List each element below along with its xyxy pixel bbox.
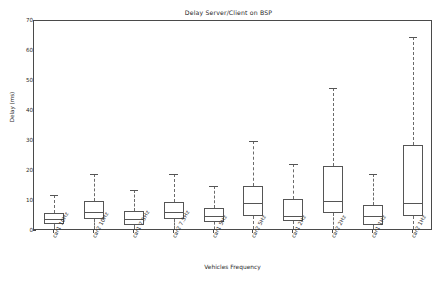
x-tick-label: car1 2Hz bbox=[290, 214, 307, 239]
x-tick-label: car2 5Hz bbox=[250, 214, 267, 239]
x-tick-label: car1 5Hz bbox=[211, 214, 228, 239]
x-tick-label: car1 10Hz bbox=[51, 211, 70, 239]
x-tick-label: car2 2Hz bbox=[330, 214, 347, 239]
x-tick-label: car2 10Hz bbox=[91, 211, 110, 239]
x-tick-label: car2 1Hz bbox=[410, 214, 427, 239]
x-tick-label: car1 7.5Hz bbox=[131, 209, 150, 238]
x-tick-label: car2 7.5Hz bbox=[171, 209, 190, 238]
boxplot-figure: Delay Server/Client on BSP Delay (ms) 01… bbox=[0, 0, 440, 281]
x-axis: car1 10Hzcar2 10Hzcar1 7.5Hzcar2 7.5Hzca… bbox=[0, 0, 440, 281]
x-axis-label: Vehicles Frequency bbox=[33, 264, 432, 270]
x-tick-label: car1 1Hz bbox=[370, 214, 387, 239]
